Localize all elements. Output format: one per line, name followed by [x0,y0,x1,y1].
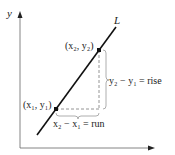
line-L-label: L [113,14,120,26]
point-p2-marker [97,48,101,52]
point-p1-label: (x₁, y₁) [23,99,52,111]
y-axis-arrow-icon [18,11,23,18]
point-p2-label: (x₂, y₂) [65,40,94,52]
x-axis-arrow-icon [148,146,155,151]
point-p1-marker [54,107,58,111]
y-axis-label: y [6,7,12,19]
run-label: x₂ − x₁ = run [53,118,105,129]
slope-diagram: y L (x₁, y₁) (x₂, y₂) y₂ − y₁ = rise x₂ … [0,0,175,155]
rise-label: y₂ − y₁ = rise [109,75,162,86]
